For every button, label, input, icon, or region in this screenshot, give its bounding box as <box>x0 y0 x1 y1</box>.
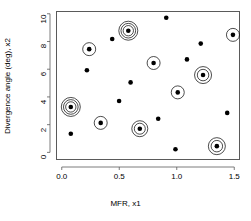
x-axis-tick-marks <box>0 0 251 221</box>
x-tick-label: 1.0 <box>167 173 187 181</box>
x-tick-label: 1.5 <box>224 173 244 181</box>
x-axis-label: MFR, x1 <box>0 200 251 208</box>
x-tick-label: 0.5 <box>109 173 129 181</box>
x-tick-label: 0.0 <box>52 173 72 181</box>
scatter-plot-figure: Divergence angle (deg), x2 0246810 0.00.… <box>0 0 251 221</box>
